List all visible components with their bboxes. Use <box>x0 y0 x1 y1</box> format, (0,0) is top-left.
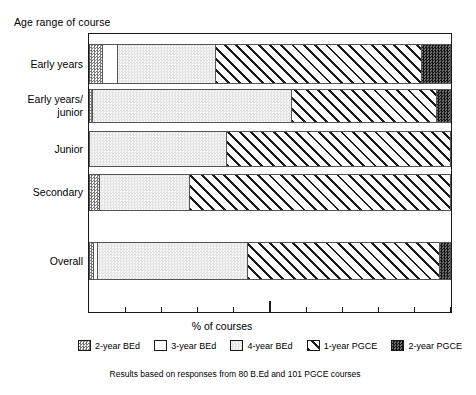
bar-segment <box>93 89 292 123</box>
category-label: Secondary <box>3 186 83 199</box>
x-axis-tick <box>306 307 307 313</box>
x-axis-tick <box>378 307 379 313</box>
legend-label: 4-year BEd <box>247 341 292 351</box>
bar-segment <box>118 44 216 84</box>
bar-segment <box>89 44 103 84</box>
bar-early-years: Early years <box>89 44 451 84</box>
bar-overall: Overall <box>89 242 451 280</box>
chart-annotation-text: Results based on responses from 80 B.Ed … <box>110 369 361 379</box>
x-axis-tick <box>269 301 270 313</box>
legend-label: 2-year BEd <box>95 341 140 351</box>
x-axis-tick <box>125 307 126 313</box>
category-label: Junior <box>3 143 83 156</box>
chart-annotation: Results based on responses from 80 B.Ed … <box>0 369 476 379</box>
legend-swatch-icon <box>78 340 91 351</box>
legend-swatch-icon <box>307 340 320 351</box>
bar-early-years-junior: Early years/ junior <box>89 89 451 123</box>
legend-label: 1-year PGCE <box>324 341 378 351</box>
category-label: Overall <box>3 255 83 268</box>
bar-segment <box>100 174 191 211</box>
x-axis-label: % of courses <box>0 320 476 332</box>
bar-segment <box>248 242 440 280</box>
category-label: Early years/ junior <box>3 93 83 118</box>
chart-legend: 2-year BEd3-year BEd4-year BEd1-year PGC… <box>78 340 462 351</box>
x-axis-tick <box>233 307 234 313</box>
bar-segment <box>216 44 422 84</box>
page-title: Age range of course <box>14 16 110 28</box>
legend-item: 2-year PGCE <box>391 340 462 351</box>
bar-segment <box>437 89 451 123</box>
x-axis-tick <box>414 307 415 313</box>
x-axis-label-text: % of courses <box>192 320 253 332</box>
legend-swatch-icon <box>154 340 167 351</box>
legend-label: 2-year PGCE <box>408 341 462 351</box>
bar-segment <box>227 131 451 167</box>
bar-segment <box>89 131 227 167</box>
legend-item: 2-year BEd <box>78 340 140 351</box>
bar-segment <box>440 242 451 280</box>
bar-junior: Junior <box>89 131 451 167</box>
bar-segment <box>422 44 451 84</box>
bar-secondary: Secondary <box>89 174 451 211</box>
bar-segment <box>190 174 451 211</box>
legend-item: 1-year PGCE <box>307 340 378 351</box>
bar-segment <box>89 174 100 211</box>
legend-label: 3-year BEd <box>171 341 216 351</box>
bar-segment <box>103 44 117 84</box>
legend-swatch-icon <box>230 340 243 351</box>
x-axis-tick <box>450 307 451 313</box>
x-axis-tick <box>161 307 162 313</box>
legend-item: 3-year BEd <box>154 340 216 351</box>
chart-plot-area: Early yearsEarly years/ juniorJuniorSeco… <box>88 33 452 313</box>
x-axis-tick <box>342 307 343 313</box>
bar-segment <box>292 89 437 123</box>
category-label: Early years <box>3 58 83 71</box>
legend-swatch-icon <box>391 340 404 351</box>
bar-segment <box>98 242 248 280</box>
x-axis-tick <box>197 307 198 313</box>
legend-item: 4-year BEd <box>230 340 292 351</box>
